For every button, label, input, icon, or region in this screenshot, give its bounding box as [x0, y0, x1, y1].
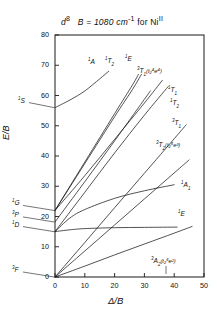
axis-frame: [55, 35, 204, 277]
energy-level-curves: [55, 71, 192, 277]
label-leader-lines: [23, 103, 166, 277]
plot-canvas: [0, 0, 217, 320]
axis-tick-marks: [55, 35, 204, 277]
